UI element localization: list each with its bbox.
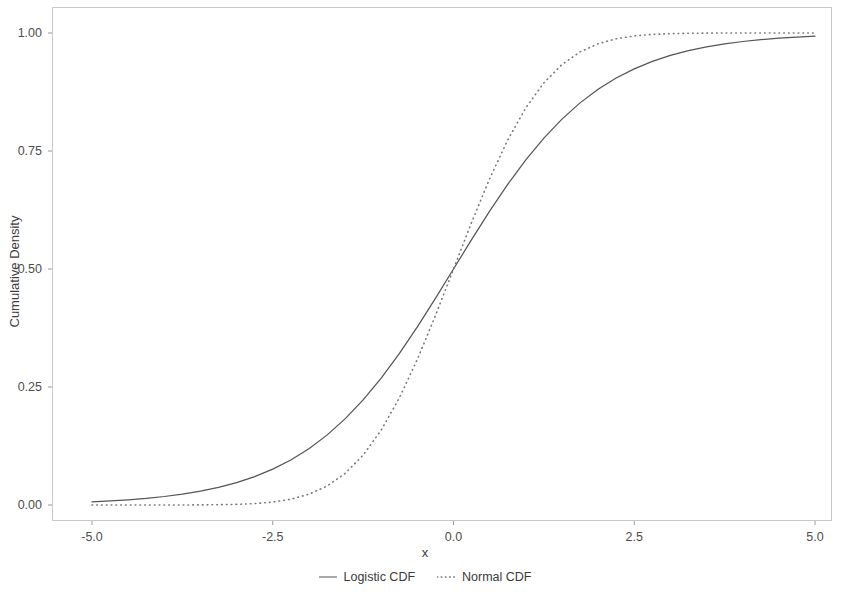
plot-panel bbox=[52, 7, 832, 521]
chart-legend: Logistic CDFNormal CDF bbox=[0, 570, 850, 584]
legend-label: Logistic CDF bbox=[344, 570, 416, 584]
y-tick-label: 0.75 bbox=[0, 144, 42, 158]
y-tick-label: 0.25 bbox=[0, 380, 42, 394]
y-tick-label: 1.00 bbox=[0, 26, 42, 40]
y-tick-label: 0.00 bbox=[0, 498, 42, 512]
y-axis-title: Cumulative Density bbox=[7, 172, 22, 372]
x-tick-label: -2.5 bbox=[262, 530, 284, 544]
legend-item-logistic-cdf[interactable]: Logistic CDF bbox=[319, 570, 416, 584]
x-axis-title: x bbox=[0, 545, 850, 560]
x-tick-label: -5.0 bbox=[81, 530, 103, 544]
legend-label: Normal CDF bbox=[462, 570, 531, 584]
x-tick-label: 5.0 bbox=[806, 530, 823, 544]
dotted-line-key bbox=[437, 572, 455, 582]
x-tick-label: 2.5 bbox=[626, 530, 643, 544]
chart-root: 0.000.250.500.751.00 -5.0-2.50.02.55.0 x… bbox=[0, 0, 850, 594]
x-tick-label: 0.0 bbox=[445, 530, 462, 544]
solid-line-key bbox=[319, 572, 337, 582]
legend-item-normal-cdf[interactable]: Normal CDF bbox=[437, 570, 531, 584]
